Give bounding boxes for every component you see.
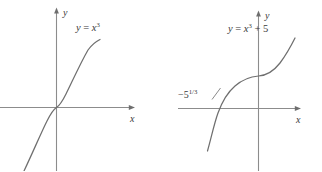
x-intercept-annotation: −51/3	[178, 88, 198, 100]
right-cubic-curve	[208, 38, 296, 151]
left-panel-y-axis	[54, 8, 59, 172]
right-x-axis-label: x	[295, 114, 301, 125]
left-equation-label: y = x3	[75, 21, 101, 33]
left-panel: y = x3 y x	[0, 7, 135, 171]
figure-root: y = x3 y x −51/3 y = x3 +	[0, 0, 322, 171]
right-panel: −51/3 y = x3 + 5 y x	[178, 10, 301, 171]
right-equation-label: y = x3 + 5	[227, 22, 268, 34]
left-cubic-curve	[24, 40, 100, 172]
right-panel-y-axis	[256, 11, 261, 172]
left-panel-x-axis	[0, 105, 135, 110]
left-x-axis-arrowhead	[129, 105, 135, 110]
cubic-graphs-figure: y = x3 y x −51/3 y = x3 +	[0, 0, 322, 171]
left-x-axis-label: x	[129, 113, 135, 124]
intercept-leader-line	[212, 88, 221, 100]
right-y-axis-label: y	[264, 10, 270, 21]
right-x-axis-arrowhead	[295, 106, 301, 111]
left-y-axis-arrowhead	[54, 8, 59, 14]
left-y-axis-label: y	[62, 7, 68, 18]
right-y-axis-arrowhead	[256, 11, 261, 17]
right-panel-x-axis	[178, 106, 301, 111]
